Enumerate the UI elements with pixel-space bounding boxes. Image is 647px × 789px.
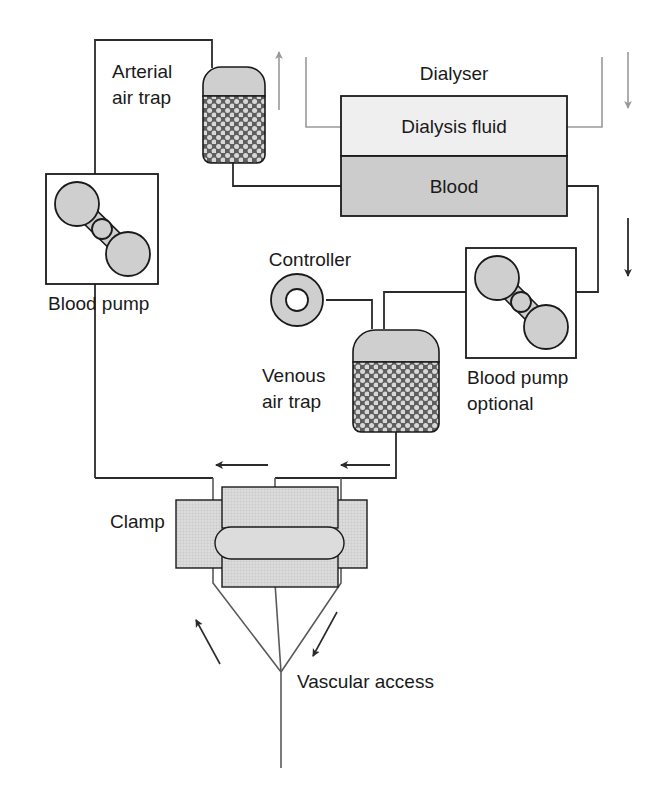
clamp-label: Clamp: [110, 511, 165, 532]
venous-air-trap-label-line2: air trap: [262, 391, 321, 412]
blood-pump-optional-hub: [511, 292, 531, 312]
tube-dialysate-inlet: [306, 57, 341, 127]
blood-pump: [46, 174, 158, 284]
arterial-air-trap-label-line2: air trap: [112, 87, 171, 108]
arterial-air-trap-dome: [203, 67, 265, 96]
blood-pump-label: Blood pump: [48, 293, 149, 314]
clamp-tube-upper: [222, 487, 338, 528]
dialysis-circuit-diagram: Arterial air trap Blood pump Dialyser Di…: [0, 0, 647, 789]
arterial-air-trap-body: [203, 96, 265, 163]
vascular-access-label: Vascular access: [297, 671, 434, 692]
tube-dialysate-outlet: [567, 57, 602, 127]
tube-optional-pump-to-venous-trap: [384, 292, 466, 329]
tube-venous-trap-to-clamp: [275, 432, 396, 478]
dialyser: [341, 96, 567, 216]
blood-pump-optional-roller-top: [475, 256, 519, 300]
blood-pump-optional-label-line1: Blood pump: [467, 367, 568, 388]
blood-pump-roller-top: [55, 182, 99, 226]
dialyser-label: Dialyser: [420, 63, 489, 84]
arterial-air-trap: [203, 67, 265, 163]
controller: [271, 274, 323, 326]
blood-pump-optional: [466, 248, 576, 358]
venous-air-trap: [353, 330, 439, 432]
diagram-canvas: Arterial air trap Blood pump Dialyser Di…: [0, 0, 647, 789]
blood-pump-roller-bottom: [106, 232, 150, 276]
dialysis-fluid-label: Dialysis fluid: [401, 116, 507, 137]
blood-chamber-label: Blood: [430, 176, 479, 197]
controller-inner-hole: [286, 289, 308, 311]
arterial-air-trap-label-line1: Arterial: [112, 61, 172, 82]
blood-pump-optional-roller-bottom: [524, 305, 568, 349]
venous-air-trap-body: [353, 362, 439, 432]
clamp: [176, 487, 367, 587]
access-draw-arrow: [196, 620, 220, 664]
controller-label: Controller: [269, 249, 352, 270]
tube-arterial-trap-to-dialyser: [233, 163, 341, 186]
venous-air-trap-label-line1: Venous: [262, 365, 325, 386]
blood-pump-optional-label-line2: optional: [467, 393, 534, 414]
venous-air-trap-dome: [353, 330, 439, 362]
tube-controller-to-venous-trap: [326, 300, 372, 329]
blood-pump-hub: [92, 219, 112, 239]
clamp-occluded-segment: [215, 527, 344, 559]
